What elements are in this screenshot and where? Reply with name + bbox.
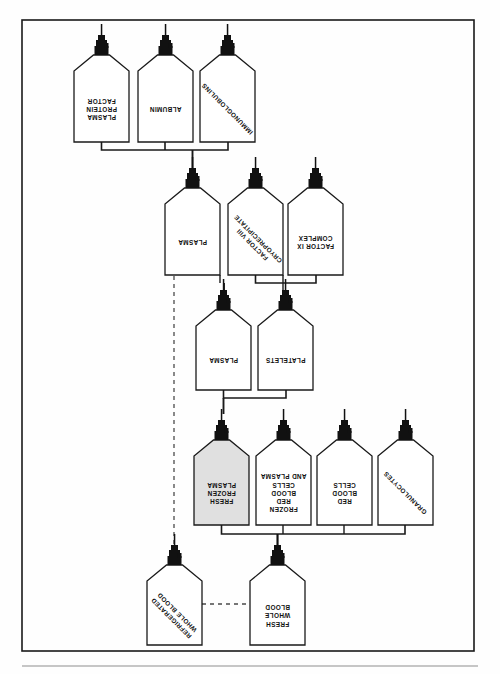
bottle-red-blood-cells[interactable]: REDBLOODCELLS: [317, 409, 372, 525]
bottle-label-fresh-whole-blood: FRESHWHOLEBLOOD: [264, 604, 290, 627]
bottle-granulocytes[interactable]: GRANULOCYTES: [378, 409, 433, 525]
bottle-row: PLASMAFACTOR VIIICRYOPRECIPITATEFACTOR I…: [165, 157, 343, 275]
bottle-cap-icon: [338, 409, 352, 440]
connector-row-plasma-fractions: [220, 275, 316, 300]
bottle-factor-viii-cryoprecipitate[interactable]: FACTOR VIIICRYOPRECIPITATE: [226, 157, 283, 275]
label-line: BLOOD: [265, 604, 290, 611]
bottle-platelets[interactable]: PLATELETS: [258, 279, 313, 390]
label-line: WHOLE: [264, 612, 290, 619]
label-line: PLASMA: [207, 482, 236, 489]
label-line: RED: [337, 498, 352, 505]
bottle-label-fresh-frozen-plasma: FRESHFROZENPLASMA: [207, 482, 236, 505]
label-line: PLASMA: [87, 114, 116, 121]
bottle-label-albumin: ALBUMIN: [150, 106, 182, 113]
bottle-fresh-whole-blood[interactable]: FRESHWHOLEBLOOD: [250, 534, 305, 645]
label-line: FACTOR: [87, 98, 115, 105]
bottle-label-factor-ix-complex: FACTOR IXCOMPLEX: [297, 235, 335, 250]
connector-row-plasma-platelets: [224, 390, 287, 414]
bottle-fresh-frozen-plasma[interactable]: FRESHFROZENPLASMA: [194, 409, 249, 525]
bottle-factor-ix-complex[interactable]: FACTOR IXCOMPLEX: [288, 157, 343, 275]
connector-row-primary-components: [222, 525, 406, 551]
label-line: PLATELETS: [265, 357, 305, 364]
bottle-cap-icon: [309, 157, 323, 188]
bottle-cap-icon: [159, 24, 173, 55]
bottle-plasma-protein-factor[interactable]: PLASMAPROTEINFACTOR: [74, 24, 129, 142]
bottle-body: [165, 188, 220, 275]
bottle-immunoglobulins[interactable]: IMMUNOGLOBULINS: [200, 24, 255, 142]
label-line: COMPLEX: [298, 235, 332, 242]
bottle-albumin[interactable]: ALBUMIN: [138, 24, 193, 142]
bottle-body: [138, 55, 193, 142]
bottle-body: [196, 310, 251, 390]
bottle-plasma-2[interactable]: PLASMA: [165, 157, 220, 275]
label-line: FROZEN: [207, 490, 235, 497]
label-line: CELLS: [333, 482, 356, 489]
bottle-row: FRESHFROZENPLASMAFROZENREDBLOODCELLSAND …: [194, 409, 433, 525]
bottle-cap-icon: [215, 409, 229, 440]
label-line: PLASMA: [209, 357, 238, 364]
bottle-label-plasma-protein-factor: PLASMAPROTEINFACTOR: [86, 98, 117, 121]
bottle-body: [288, 188, 343, 275]
bottle-cap-icon: [249, 157, 263, 188]
bottle-frozen-red-blood-cells-and-plasma[interactable]: FROZENREDBLOODCELLSAND PLASMA: [256, 409, 311, 525]
bottle-cap-icon: [168, 534, 182, 565]
bottle-row: PLASMAPLATELETS: [196, 279, 313, 390]
bottle-cap-icon: [95, 24, 109, 55]
bottle-row: PLASMAPROTEINFACTORALBUMINIMMUNOGLOBULIN…: [74, 24, 255, 142]
connector-row-plasma-derivatives: [102, 142, 229, 168]
bottle-label-plasma-3: PLASMA: [209, 357, 238, 364]
label-line: AND PLASMA: [260, 473, 306, 480]
label-line: FACTOR IX: [297, 243, 335, 250]
bottle-cap-icon: [271, 534, 285, 565]
bottle-layer: PLASMAPROTEINFACTORALBUMINIMMUNOGLOBULIN…: [74, 24, 433, 645]
bottle-label-plasma-2: PLASMA: [178, 239, 207, 246]
bottle-label-platelets: PLATELETS: [265, 357, 305, 364]
label-line: FRESH: [266, 621, 289, 628]
bottle-cap-icon: [186, 157, 200, 188]
bottle-row: REFRIGERATEDWHOLE BLOODFRESHWHOLEBLOOD: [147, 534, 305, 645]
label-line: ALBUMIN: [150, 106, 182, 113]
blood-component-diagram: PLASMAPROTEINFACTORALBUMINIMMUNOGLOBULIN…: [0, 0, 500, 674]
bottle-plasma-3[interactable]: PLASMA: [196, 279, 251, 390]
bottle-cap-icon: [277, 409, 291, 440]
label-line: BLOOD: [271, 490, 296, 497]
label-line: FROZEN: [269, 506, 297, 513]
bottle-refrigerated-whole-blood[interactable]: REFRIGERATEDWHOLE BLOOD: [147, 534, 202, 645]
label-line: BLOOD: [332, 490, 357, 497]
bottle-body: [258, 310, 313, 390]
bottle-cap-icon: [221, 24, 235, 55]
bottle-cap-icon: [217, 279, 231, 310]
label-line: PROTEIN: [86, 106, 117, 113]
label-line: CELLS: [272, 482, 295, 489]
label-line: RED: [276, 498, 291, 505]
label-line: PLASMA: [178, 239, 207, 246]
bottle-cap-icon: [399, 409, 413, 440]
diagram-canvas: PLASMAPROTEINFACTORALBUMINIMMUNOGLOBULIN…: [0, 0, 500, 674]
label-line: FRESH: [210, 498, 233, 505]
